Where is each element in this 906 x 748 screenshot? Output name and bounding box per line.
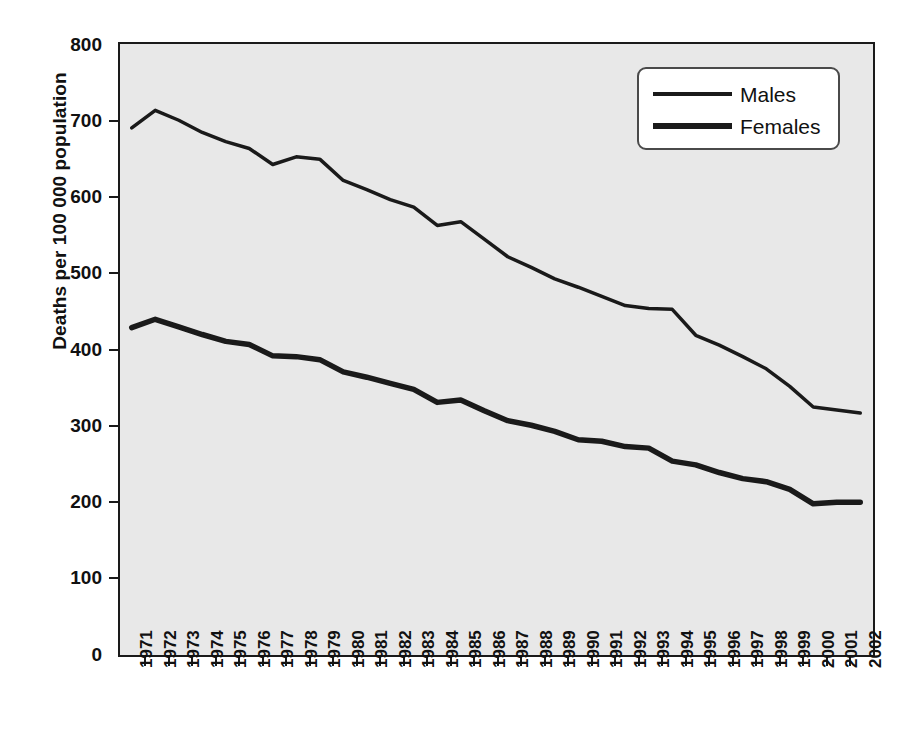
y-tick-label-600: 600 — [50, 187, 102, 206]
y-tick-label-400: 400 — [50, 340, 102, 359]
chart-legend: Males Females — [637, 67, 840, 150]
x-tick-label-1996: 1996 — [726, 630, 743, 668]
x-tick-label-1990: 1990 — [585, 630, 602, 668]
x-tick-label-1982: 1982 — [397, 630, 414, 668]
y-axis-tick-marks — [109, 0, 118, 748]
y-tick-mark-600 — [109, 196, 118, 198]
y-tick-mark-200 — [109, 501, 118, 503]
x-tick-label-1981: 1981 — [373, 630, 390, 668]
legend-item-males: Males — [653, 81, 796, 107]
x-tick-label-1986: 1986 — [491, 630, 508, 668]
y-tick-mark-700 — [109, 120, 118, 122]
x-tick-label-1999: 1999 — [796, 630, 813, 668]
x-tick-label-1973: 1973 — [185, 630, 202, 668]
y-tick-label-800: 800 — [50, 35, 102, 54]
y-axis-tick-labels: 0100200300400500600700800 — [0, 0, 118, 748]
x-tick-label-1984: 1984 — [444, 630, 461, 668]
x-tick-label-1974: 1974 — [209, 630, 226, 668]
x-tick-label-1978: 1978 — [303, 630, 320, 668]
x-tick-label-2000: 2000 — [820, 630, 837, 668]
x-tick-label-1977: 1977 — [279, 630, 296, 668]
x-tick-label-1993: 1993 — [655, 630, 672, 668]
legend-label-males: Males — [740, 84, 796, 105]
y-tick-label-100: 100 — [50, 568, 102, 587]
x-tick-label-1985: 1985 — [467, 630, 484, 668]
x-axis-tick-labels: 1971197219731974197519761977197819791980… — [118, 668, 875, 748]
y-tick-label-0: 0 — [50, 645, 102, 664]
y-tick-mark-400 — [109, 349, 118, 351]
x-tick-label-1998: 1998 — [773, 630, 790, 668]
legend-line-swatch-males — [653, 92, 732, 96]
x-tick-label-1980: 1980 — [350, 630, 367, 668]
x-tick-label-1972: 1972 — [162, 630, 179, 668]
x-tick-label-1997: 1997 — [749, 630, 766, 668]
y-tick-label-500: 500 — [50, 263, 102, 282]
y-tick-mark-100 — [109, 577, 118, 579]
y-tick-label-200: 200 — [50, 492, 102, 511]
x-tick-label-1989: 1989 — [561, 630, 578, 668]
x-tick-label-2001: 2001 — [843, 630, 860, 668]
x-tick-label-1994: 1994 — [679, 630, 696, 668]
series-line-females — [132, 319, 861, 504]
x-tick-label-1983: 1983 — [420, 630, 437, 668]
x-tick-label-1976: 1976 — [256, 630, 273, 668]
legend-item-females: Females — [653, 113, 821, 139]
legend-label-females: Females — [740, 116, 821, 137]
y-tick-mark-300 — [109, 425, 118, 427]
chart-figure: Deaths per 100 000 population 0100200300… — [0, 0, 906, 748]
x-tick-label-1995: 1995 — [702, 630, 719, 668]
series-line-males — [132, 110, 861, 413]
x-tick-label-1971: 1971 — [138, 630, 155, 668]
y-tick-label-700: 700 — [50, 111, 102, 130]
x-tick-label-1991: 1991 — [608, 630, 625, 668]
x-tick-label-1992: 1992 — [632, 630, 649, 668]
x-tick-label-1988: 1988 — [538, 630, 555, 668]
x-tick-label-1987: 1987 — [514, 630, 531, 668]
y-tick-mark-500 — [109, 272, 118, 274]
x-tick-label-1975: 1975 — [232, 630, 249, 668]
x-tick-label-1979: 1979 — [326, 630, 343, 668]
x-tick-label-2002: 2002 — [867, 630, 884, 668]
y-tick-label-300: 300 — [50, 416, 102, 435]
legend-line-swatch-females — [653, 123, 732, 129]
